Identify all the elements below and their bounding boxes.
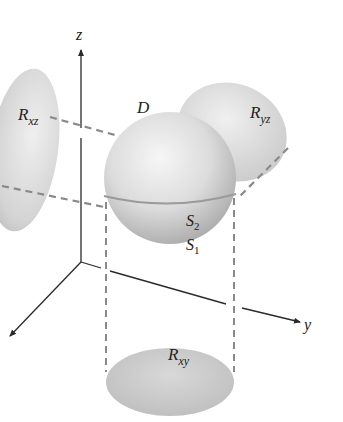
region-d-sphere bbox=[104, 112, 236, 244]
y-axis-label: y bbox=[302, 316, 312, 334]
y-axis bbox=[81, 262, 300, 322]
projection-xz bbox=[0, 64, 69, 236]
divergence-theorem-diagram: z y D Rxz Ryz S2 S1 Rxy bbox=[0, 0, 343, 422]
region-d-label: D bbox=[136, 98, 150, 117]
surface-s1-label: S1 bbox=[186, 236, 200, 256]
x-axis bbox=[10, 262, 81, 336]
z-axis-label: z bbox=[75, 26, 83, 43]
